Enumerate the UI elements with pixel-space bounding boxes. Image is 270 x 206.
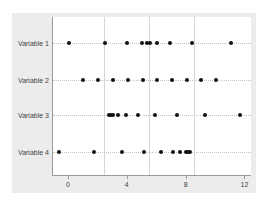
data-point <box>170 78 174 82</box>
data-point <box>142 150 146 154</box>
data-point <box>67 41 71 45</box>
data-point <box>136 113 140 117</box>
data-point <box>141 78 145 82</box>
data-point <box>155 41 159 45</box>
data-point <box>185 78 189 82</box>
data-point <box>171 150 175 154</box>
data-point <box>229 41 233 45</box>
x-tick <box>244 176 245 179</box>
x-tick <box>68 176 69 179</box>
data-point <box>120 150 124 154</box>
x-tick-label: 0 <box>66 181 70 188</box>
y-category-label: Variable 1 <box>18 40 49 47</box>
data-point <box>57 150 61 154</box>
data-point <box>81 78 85 82</box>
row-gridline <box>53 152 251 153</box>
data-point <box>214 78 218 82</box>
data-point <box>124 113 128 117</box>
plot-area <box>52 17 251 176</box>
x-tick <box>186 176 187 179</box>
data-point <box>175 113 179 117</box>
data-point <box>111 113 115 117</box>
data-point <box>96 78 100 82</box>
data-point <box>140 41 144 45</box>
data-point <box>111 78 115 82</box>
data-point <box>199 78 203 82</box>
x-tick-label: 4 <box>125 181 129 188</box>
data-point <box>168 41 172 45</box>
data-point <box>92 150 96 154</box>
x-tick <box>127 176 128 179</box>
data-point <box>159 150 163 154</box>
data-point <box>155 78 159 82</box>
row-gridline <box>53 43 251 44</box>
data-point <box>116 113 120 117</box>
data-point <box>238 113 242 117</box>
data-point <box>203 113 207 117</box>
row-gridline <box>53 115 251 116</box>
y-category-label: Variable 3 <box>18 112 49 119</box>
x-tick-label: 8 <box>184 181 188 188</box>
y-category-label: Variable 2 <box>18 77 49 84</box>
data-point <box>103 41 107 45</box>
data-point <box>178 150 182 154</box>
data-point <box>148 41 152 45</box>
data-point <box>188 150 192 154</box>
data-point <box>126 78 130 82</box>
y-category-label: Variable 4 <box>18 149 49 156</box>
data-point <box>125 41 129 45</box>
x-tick-label: 12 <box>240 181 248 188</box>
data-point <box>153 113 157 117</box>
